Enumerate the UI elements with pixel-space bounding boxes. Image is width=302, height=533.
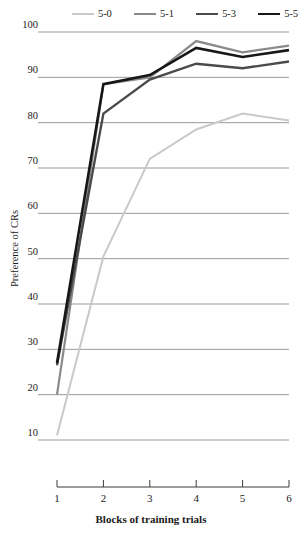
x-tick-label: 5	[233, 493, 253, 504]
y-tick-label: 100	[12, 20, 38, 31]
x-tick-label: 3	[140, 493, 160, 504]
y-tick-label: 10	[12, 428, 38, 439]
data-lines	[57, 41, 289, 435]
x-tick-label: 4	[186, 493, 206, 504]
x-axis-ticks	[57, 480, 289, 487]
x-axis-title: Blocks of training trials	[0, 513, 302, 525]
y-tick-label: 90	[12, 65, 38, 76]
series-line-5-1	[57, 41, 289, 395]
y-tick-label: 20	[12, 383, 38, 394]
y-tick-label: 80	[12, 111, 38, 122]
y-tick-label: 30	[12, 337, 38, 348]
gridlines	[38, 32, 289, 440]
y-tick-label: 70	[12, 156, 38, 167]
x-tick-label: 6	[279, 493, 299, 504]
plot-area	[0, 0, 302, 533]
chart-container: 5-05-15-35-5 102030405060708090100 12345…	[0, 0, 302, 533]
y-axis-title: Preference of CRs	[9, 189, 20, 309]
x-tick-label: 2	[93, 493, 113, 504]
x-tick-label: 1	[47, 493, 67, 504]
series-line-5-5	[57, 48, 289, 363]
